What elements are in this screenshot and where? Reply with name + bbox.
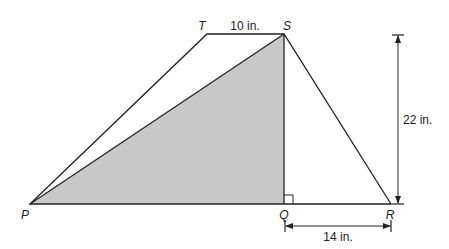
vertex-label-r: R — [386, 208, 395, 222]
measurement-height: 22 in. — [403, 113, 432, 127]
measurement-qr: 14 in. — [323, 230, 352, 244]
vertex-label-q: Q — [279, 208, 288, 222]
trapezoid-diagram: T S P Q R 10 in. 22 in. 14 in. — [0, 0, 449, 249]
measurement-ts: 10 in. — [230, 19, 259, 33]
vertex-label-p: P — [21, 208, 29, 222]
vertex-label-t: T — [198, 19, 207, 33]
vertex-label-s: S — [283, 19, 291, 33]
right-angle-mark — [284, 195, 293, 204]
